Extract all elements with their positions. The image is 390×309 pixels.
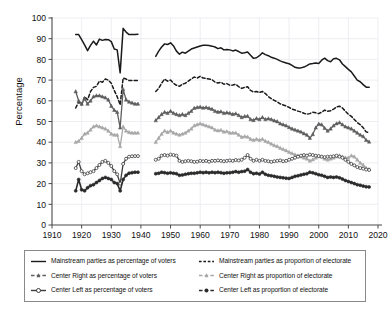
- legend-item-center_right_voters: Center Right as percentage of voters: [30, 271, 198, 280]
- svg-text:1950: 1950: [161, 230, 180, 240]
- legend-item-mainstream_voters: Mainstream parties as percentage of vote…: [30, 257, 198, 266]
- svg-text:1940: 1940: [131, 230, 150, 240]
- svg-text:10: 10: [36, 200, 46, 210]
- chart-plot-container: Percentage 01020304050607080901001910192…: [0, 0, 390, 248]
- line-circle-open-icon: [30, 286, 47, 295]
- legend-label: Center Right as percentage of voters: [51, 273, 157, 280]
- svg-text:1910: 1910: [42, 230, 61, 240]
- svg-text:60: 60: [36, 96, 46, 106]
- svg-text:1970: 1970: [220, 230, 239, 240]
- chart-figure: Percentage 01020304050607080901001910192…: [0, 0, 390, 309]
- series-mainstream_voters: [76, 28, 369, 87]
- svg-text:1920: 1920: [72, 230, 91, 240]
- line-circle-filled-icon: [198, 286, 215, 295]
- svg-text:1960: 1960: [191, 230, 210, 240]
- svg-text:90: 90: [36, 34, 46, 44]
- svg-text:1980: 1980: [250, 230, 269, 240]
- legend-item-center_right_electorate: Center Right as proportion of electorate: [198, 271, 370, 280]
- legend-item-center_left_voters: Center Left as percentage of voters: [30, 286, 198, 295]
- solid-line-icon: [30, 257, 47, 266]
- svg-text:20: 20: [36, 179, 46, 189]
- svg-text:50: 50: [36, 117, 46, 127]
- dashed-line-icon: [198, 257, 215, 266]
- legend-item-mainstream_electorate: Mainstream parties as proportion of elec…: [198, 257, 370, 266]
- legend-label: Mainstream parties as proportion of elec…: [219, 258, 351, 265]
- svg-text:80: 80: [36, 55, 46, 65]
- legend-label: Center Right as proportion of electorate: [219, 273, 332, 280]
- svg-text:100: 100: [32, 13, 47, 23]
- svg-text:1990: 1990: [280, 230, 299, 240]
- legend-label: Mainstream parties as percentage of vote…: [51, 258, 176, 265]
- line-chart-svg: 0102030405060708090100191019201930194019…: [0, 0, 390, 248]
- svg-text:2020: 2020: [368, 230, 387, 240]
- svg-text:70: 70: [36, 75, 46, 85]
- svg-text:2000: 2000: [309, 230, 328, 240]
- legend-label: Center Left as percentage of voters: [51, 287, 153, 294]
- svg-text:1930: 1930: [102, 230, 121, 240]
- line-triangle-light-icon: [198, 271, 215, 280]
- gridlines: [52, 18, 378, 225]
- svg-text:0: 0: [41, 220, 46, 230]
- y-axis-title: Percentage: [13, 77, 24, 126]
- series-center_right_voters: [74, 88, 371, 144]
- svg-text:30: 30: [36, 158, 46, 168]
- svg-text:40: 40: [36, 137, 46, 147]
- legend-item-center_left_electorate: Center Left as proportion of electorate: [198, 286, 370, 295]
- data-series: [74, 28, 371, 192]
- line-triangle-dark-icon: [30, 271, 47, 280]
- legend-label: Center Left as proportion of electorate: [219, 287, 328, 294]
- series-center_left_voters: [74, 153, 370, 185]
- svg-text:2010: 2010: [339, 230, 358, 240]
- chart-legend: Mainstream parties as percentage of vote…: [24, 250, 366, 302]
